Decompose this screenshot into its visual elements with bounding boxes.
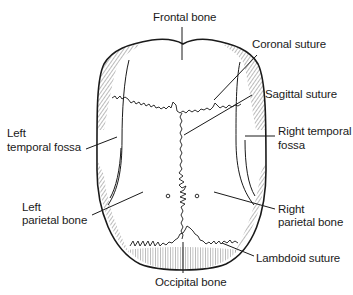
label-occipital-bone: Occipital bone (155, 276, 226, 289)
label-lambdoid-suture: Lambdoid suture (256, 252, 340, 265)
right-parietal-foramen (195, 194, 199, 198)
right-temporal-inner (245, 140, 255, 196)
label-coronal-suture: Coronal suture (252, 38, 326, 51)
label-left-parietal-bone-line1: Left (22, 201, 41, 214)
coronal-suture (112, 96, 241, 113)
lambdoid-suture (130, 226, 238, 246)
left-parietal-foramen (166, 194, 170, 198)
label-frontal-bone: Frontal bone (153, 11, 216, 24)
left-temporal-leader (86, 137, 117, 149)
label-sagittal-suture: Sagittal suture (265, 88, 337, 101)
right-parietal-leader (214, 192, 275, 209)
skull-diagram: Frontal bone Coronal suture Sagittal sut… (0, 0, 353, 295)
label-left-temporal-fossa-line2: temporal fossa (7, 141, 81, 154)
label-left-temporal-fossa-line1: Left (7, 127, 26, 140)
label-right-parietal-bone-line2: parietal bone (278, 216, 343, 229)
label-left-parietal-bone-line2: parietal bone (22, 214, 87, 227)
label-right-parietal-bone-line1: Right (278, 203, 304, 216)
skull-shading (97, 44, 266, 270)
sagittal-leader (184, 95, 252, 135)
label-right-temporal-fossa-line1: Right temporal (278, 125, 351, 138)
label-right-temporal-fossa-line2: fossa (278, 139, 305, 152)
sagittal-suture (179, 113, 186, 239)
